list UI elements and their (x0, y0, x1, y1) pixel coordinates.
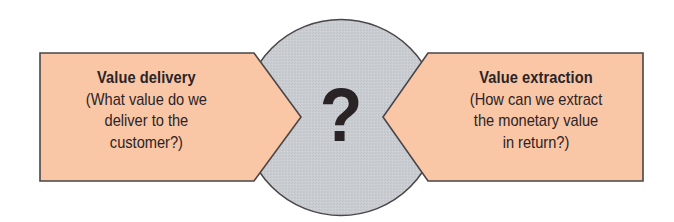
value-delivery-line-1: (What value do we (85, 89, 206, 111)
value-extraction-line-3: in return?) (470, 132, 602, 154)
value-delivery-line-3: customer?) (85, 132, 206, 154)
value-extraction-line-2: the monetary value (470, 110, 602, 132)
value-extraction-title: Value extraction (470, 67, 602, 89)
value-diagram: ? Value delivery (What value do we deliv… (0, 0, 674, 222)
value-delivery-line-2: deliver to the (85, 110, 206, 132)
value-delivery-label: Value delivery (What value do we deliver… (44, 66, 248, 154)
value-extraction-line-1: (How can we extract (470, 89, 602, 111)
value-extraction-label: Value extraction (How can we extract the… (432, 66, 640, 154)
question-mark-icon: ? (312, 75, 369, 155)
value-delivery-title: Value delivery (85, 67, 206, 89)
